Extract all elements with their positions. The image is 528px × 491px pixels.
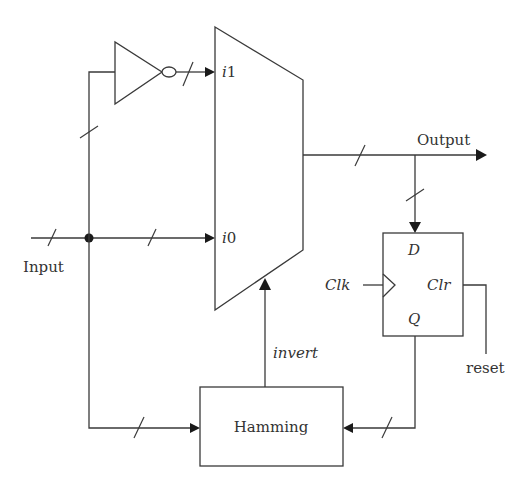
hamming-input-arrow-icon [190,423,200,433]
clk-label: Clk [325,276,350,294]
mux-i1-label: i1 [222,63,236,81]
invert-select-wire [259,278,271,387]
ff-d-label: D [407,241,420,259]
output-arrow-icon [476,149,487,161]
reset-wire [463,285,486,354]
mux-i0-label: i0 [222,229,236,247]
bus-invert-encoder-diagram: i1 i0 Output D Clr Q Clk reset Hamming i… [0,0,528,491]
select-arrow-icon [259,278,271,290]
d-input-wire [406,155,424,233]
hamming-feedback-arrow-icon [343,423,353,433]
i1-arrow-icon [205,67,215,77]
d-arrow-icon [409,222,421,233]
reset-label: reset [466,359,505,377]
inverter-bubble [162,67,176,77]
input-branch-wire [80,72,200,438]
input-label: Input [23,258,64,276]
q-feedback-wire [343,336,415,438]
ff-q-label: Q [408,310,420,328]
input-wire [31,229,215,246]
hamming-label: Hamming [234,418,309,436]
output-label: Output [417,131,470,149]
ff-clr-label: Clr [427,276,451,294]
i1-digit: 1 [227,63,237,81]
inverter-gate [115,42,215,104]
invert-label: invert [273,344,319,362]
i0-digit: 0 [227,229,237,247]
i0-arrow-icon [205,233,215,243]
